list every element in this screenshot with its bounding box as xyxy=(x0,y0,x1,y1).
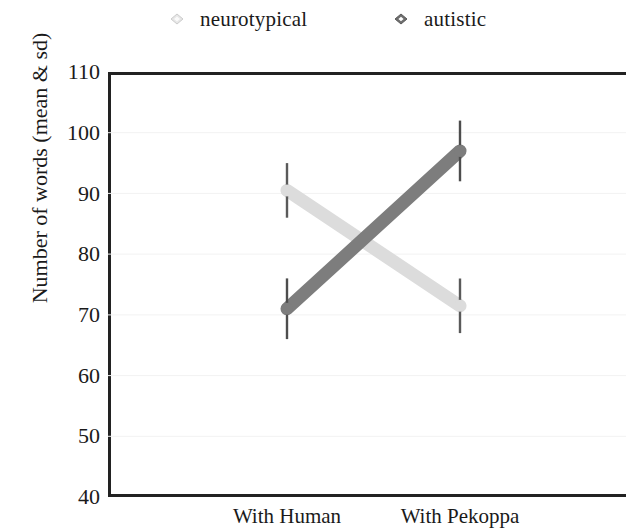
y-tick-110: 110 xyxy=(44,61,100,83)
y-axis-tick-labels: 110 100 90 80 70 60 50 40 xyxy=(44,0,100,531)
diamond-icon xyxy=(392,10,410,28)
y-tick-100: 100 xyxy=(44,122,100,144)
x-tick-with-pekoppa: With Pekoppa xyxy=(401,503,520,529)
y-tick-50: 50 xyxy=(44,425,100,447)
datapoint-neurotypical-with-human xyxy=(281,184,293,196)
datapoint-autistic-with-human xyxy=(281,303,293,315)
x-tick-with-human: With Human xyxy=(233,503,341,529)
series-autistic xyxy=(281,121,466,340)
gridlines xyxy=(108,133,626,437)
y-tick-90: 90 xyxy=(44,183,100,205)
legend-item-autistic: autistic xyxy=(392,6,486,32)
diamond-icon xyxy=(168,10,186,28)
x-axis-tick-labels: With Human With Pekoppa xyxy=(0,503,626,531)
y-tick-80: 80 xyxy=(44,243,100,265)
legend-label-autistic: autistic xyxy=(424,6,486,32)
series-neurotypical xyxy=(281,163,466,333)
legend-item-neurotypical: neurotypical xyxy=(168,6,307,32)
y-tick-70: 70 xyxy=(44,304,100,326)
datapoint-neurotypical-with-pekoppa xyxy=(454,300,466,312)
plot-canvas xyxy=(108,72,626,497)
datapoint-autistic-with-pekoppa xyxy=(454,145,466,157)
y-tick-60: 60 xyxy=(44,365,100,387)
legend-label-neurotypical: neurotypical xyxy=(200,6,307,32)
chart-figure: neurotypical autistic Number of words (m… xyxy=(0,0,626,531)
